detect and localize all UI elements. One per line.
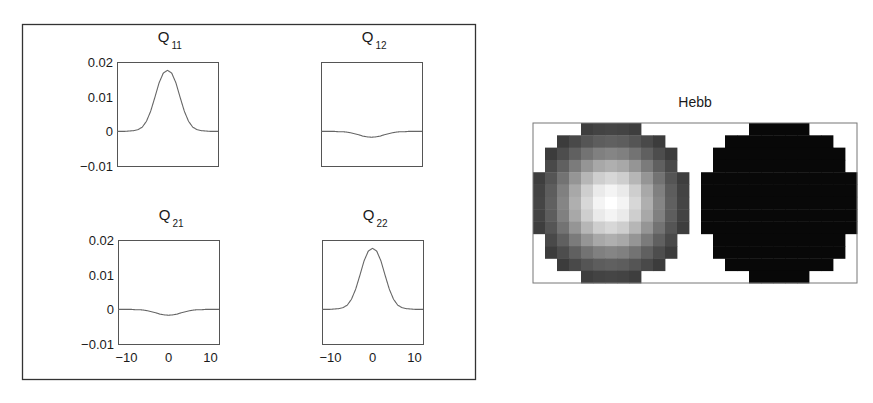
heatmap-cell: [833, 160, 845, 173]
heatmap-cell: [761, 148, 773, 161]
heatmap-cell: [569, 221, 581, 234]
heatmap-cell: [797, 209, 809, 222]
heatmap-cell: [581, 221, 593, 234]
heatmap-cell: [785, 234, 797, 247]
heatmap-cell: [713, 197, 725, 210]
heatmap-cell: [833, 221, 845, 234]
heatmap-cell: [713, 172, 725, 185]
data-line: [321, 131, 422, 137]
heatmap-cell: [725, 209, 737, 222]
heatmap-cell: [749, 185, 761, 198]
heatmap-cell: [629, 135, 641, 148]
heatmap-cell: [629, 221, 641, 234]
heatmap-cell: [797, 271, 809, 284]
heatmap-cell: [821, 185, 833, 198]
heatmap-cell: [581, 135, 593, 148]
heatmap-cell: [593, 221, 605, 234]
heatmap-cell: [617, 271, 629, 284]
heatmap-cell: [641, 185, 653, 198]
q-matrix-subplots: Q110.020.010−0.01Q12Q210.020.010−0.01−10…: [80, 28, 423, 365]
heatmap-cell: [785, 148, 797, 161]
heatmap-cell: [773, 160, 785, 173]
x-tick-label: 0: [165, 350, 172, 365]
heatmap-cell: [581, 197, 593, 210]
heatmap-cell: [557, 246, 569, 259]
heatmap-cell: [581, 123, 593, 136]
heatmap-cell: [629, 246, 641, 259]
heatmap-cell: [761, 172, 773, 185]
heatmap-cell: [809, 221, 821, 234]
heatmap-cell: [665, 197, 677, 210]
heatmap-cell: [605, 185, 617, 198]
heatmap-cell: [569, 172, 581, 185]
heatmap-cell: [557, 234, 569, 247]
heatmap-cell: [653, 148, 665, 161]
heatmap-cell: [773, 148, 785, 161]
heatmap-cell: [749, 160, 761, 173]
heatmap-cell: [605, 148, 617, 161]
heatmap-cell: [653, 197, 665, 210]
heatmap-cell: [809, 246, 821, 259]
heatmap-cell: [797, 123, 809, 136]
heatmap-cell: [773, 209, 785, 222]
heatmap-cell: [773, 172, 785, 185]
subplot-title-subscript: 22: [377, 218, 389, 229]
subplot-title: Q: [362, 28, 374, 45]
heatmap-cell: [677, 209, 689, 222]
heatmap-cell: [593, 271, 605, 284]
subplot-title-subscript: 11: [172, 40, 183, 51]
subplot-title-subscript: 12: [376, 40, 388, 51]
heatmap-cell: [773, 271, 785, 284]
heatmap-cell: [545, 221, 557, 234]
heatmap-cell: [581, 246, 593, 259]
heatmap-cell: [809, 197, 821, 210]
receptive-field-left: [533, 123, 689, 283]
subplot-title: Q: [158, 28, 170, 45]
hebb-heatmap: [533, 123, 857, 283]
heatmap-cell: [737, 234, 749, 247]
heatmap-cell: [665, 246, 677, 259]
heatmap-cell: [581, 271, 593, 284]
y-tick-label: 0.02: [89, 233, 114, 248]
heatmap-cell: [833, 234, 845, 247]
subplot-title-subscript: 21: [173, 218, 185, 229]
heatmap-cell: [533, 209, 545, 222]
heatmap-cell: [809, 234, 821, 247]
heatmap-cell: [569, 160, 581, 173]
heatmap-cell: [545, 160, 557, 173]
heatmap-cell: [749, 123, 761, 136]
heatmap-cell: [557, 221, 569, 234]
heatmap-cell: [821, 258, 833, 271]
heatmap-cell: [665, 234, 677, 247]
heatmap-cell: [545, 197, 557, 210]
heatmap-cell: [701, 209, 713, 222]
heatmap-cell: [737, 135, 749, 148]
subplot-title: Q: [363, 206, 375, 223]
receptive-field-right: [701, 123, 857, 283]
heatmap-cell: [809, 185, 821, 198]
axes-box: [323, 241, 424, 345]
heatmap-cell: [617, 209, 629, 222]
heatmap-cell: [593, 160, 605, 173]
heatmap-cell: [677, 172, 689, 185]
heatmap-cell: [761, 234, 773, 247]
heatmap-cell: [833, 209, 845, 222]
heatmap-cell: [773, 185, 785, 198]
heatmap-cell: [749, 172, 761, 185]
heatmap-cell: [629, 258, 641, 271]
heatmap-cell: [581, 148, 593, 161]
heatmap-cell: [545, 209, 557, 222]
heatmap-cell: [773, 221, 785, 234]
heatmap-cell: [605, 221, 617, 234]
y-tick-label: 0.01: [89, 268, 114, 283]
heatmap-cell: [809, 135, 821, 148]
heatmap-cell: [653, 209, 665, 222]
y-tick-label: 0.02: [88, 55, 113, 70]
heatmap-cell: [713, 221, 725, 234]
heatmap-cell: [761, 160, 773, 173]
x-tick-label: 0: [369, 350, 376, 365]
x-tick-label: 10: [203, 350, 217, 365]
heatmap-cell: [821, 160, 833, 173]
heatmap-cell: [749, 209, 761, 222]
heatmap-cell: [617, 246, 629, 259]
